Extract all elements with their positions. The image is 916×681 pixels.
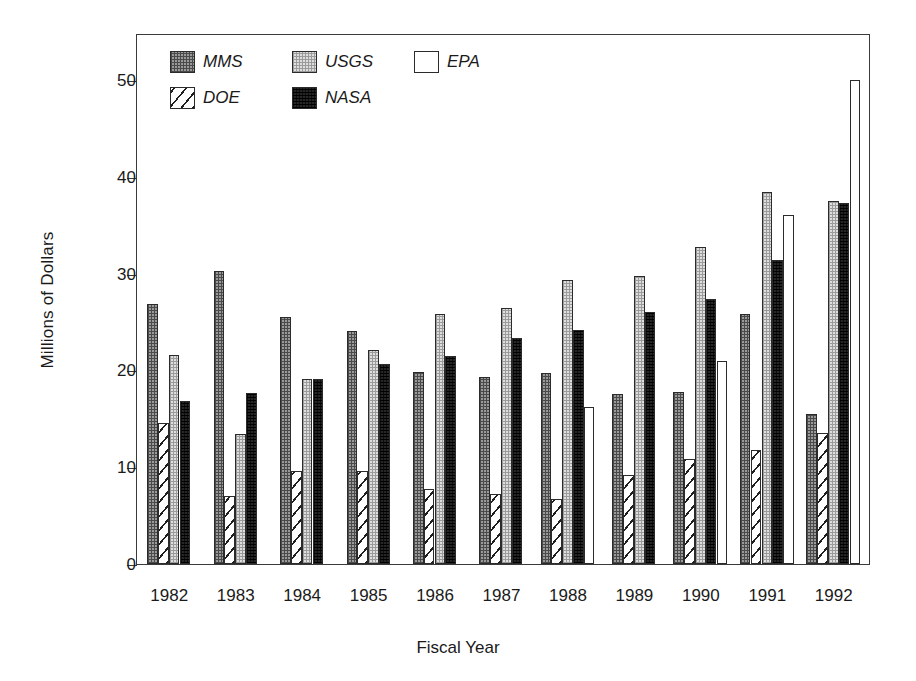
bar-group — [669, 35, 735, 564]
legend-label: USGS — [325, 51, 373, 73]
y-axis-tick-label: 40 — [32, 169, 136, 186]
bar-nasa-1986 — [445, 356, 456, 564]
bar-epa-1991 — [783, 215, 794, 564]
bar-usgs-1986 — [435, 314, 446, 564]
bar-mms-1986 — [413, 372, 424, 564]
bar-nasa-1983 — [246, 393, 257, 564]
bar-nasa-1988 — [573, 330, 584, 564]
x-axis-tick-label: 1988 — [535, 586, 601, 606]
bar-nasa-1984 — [313, 379, 324, 564]
y-axis-title: Millions of Dollars — [38, 190, 58, 410]
swatch-doe-diagonal-hatch-icon — [170, 87, 195, 109]
legend-label: DOE — [203, 87, 240, 109]
bar-nasa-1990 — [706, 299, 717, 564]
bar-doe-1986 — [424, 489, 435, 565]
x-axis-tick-label: 1983 — [202, 586, 268, 606]
bar-doe-1982 — [158, 423, 169, 564]
bar-epa-1990 — [717, 361, 728, 564]
bar-doe-1992 — [817, 433, 828, 564]
bar-epa-1988 — [584, 407, 595, 564]
bar-doe-1988 — [551, 499, 562, 564]
bar-group — [735, 35, 801, 564]
legend-label: NASA — [325, 87, 371, 109]
swatch-epa-white-icon — [414, 51, 439, 73]
bar-mms-1990 — [673, 392, 684, 564]
bar-mms-1988 — [541, 373, 552, 564]
x-axis-tick-label: 1987 — [468, 586, 534, 606]
bar-usgs-1988 — [562, 280, 573, 564]
bar-mms-1989 — [612, 394, 623, 564]
bar-doe-1989 — [623, 475, 634, 564]
bar-group — [602, 35, 668, 564]
bar-doe-1983 — [224, 496, 235, 564]
swatch-usgs-light-speckled-icon — [292, 51, 317, 73]
x-axis-tick-label: 1989 — [601, 586, 667, 606]
x-axis-tick-label: 1991 — [734, 586, 800, 606]
bar-mms-1983 — [214, 271, 225, 564]
bar-nasa-1982 — [180, 401, 191, 564]
swatch-mms-dark-speckled-icon — [170, 51, 195, 73]
y-axis-tick-label: 50 — [32, 72, 136, 89]
legend-label: EPA — [447, 51, 480, 73]
legend-label: MMS — [203, 51, 243, 73]
x-axis-tick-label: 1992 — [801, 586, 867, 606]
x-axis-title: Fiscal Year — [0, 638, 916, 658]
bar-nasa-1985 — [379, 364, 390, 564]
bar-usgs-1987 — [501, 308, 512, 564]
bar-doe-1987 — [490, 494, 501, 564]
bar-doe-1984 — [291, 471, 302, 564]
bar-usgs-1990 — [695, 247, 706, 565]
x-axis-tick-label: 1990 — [668, 586, 734, 606]
bar-epa-1992 — [850, 80, 861, 564]
bar-usgs-1989 — [634, 276, 645, 564]
bar-doe-1991 — [751, 450, 762, 564]
bar-mms-1985 — [347, 331, 358, 564]
bar-doe-1985 — [357, 471, 368, 564]
chart-legend: MMSUSGSEPADOENASA — [170, 47, 530, 121]
bar-usgs-1983 — [235, 434, 246, 564]
bar-mms-1991 — [740, 314, 751, 564]
bar-nasa-1991 — [772, 260, 783, 564]
bar-usgs-1982 — [169, 355, 180, 564]
y-axis-tick-label: 10 — [32, 459, 136, 476]
x-axis-tick-label: 1986 — [402, 586, 468, 606]
bar-nasa-1987 — [512, 338, 523, 564]
bar-nasa-1992 — [839, 203, 850, 564]
bar-usgs-1985 — [368, 350, 379, 564]
y-axis-tick-label: 0 — [32, 556, 136, 573]
bar-usgs-1992 — [828, 201, 839, 564]
bar-mms-1984 — [280, 317, 291, 564]
x-axis-tick-label: 1984 — [269, 586, 335, 606]
bar-mms-1982 — [147, 304, 158, 564]
bar-mms-1987 — [479, 377, 490, 564]
swatch-nasa-solid-black-icon — [292, 87, 317, 109]
bar-nasa-1989 — [645, 312, 656, 564]
bar-chart-figure: 01020304050 Millions of Dollars Fiscal Y… — [0, 0, 916, 681]
bar-mms-1992 — [806, 414, 817, 564]
bar-group — [536, 35, 602, 564]
x-axis-tick-label: 1982 — [136, 586, 202, 606]
bar-usgs-1991 — [762, 192, 773, 564]
bar-usgs-1984 — [302, 379, 313, 564]
y-axis: 01020304050 — [0, 0, 136, 681]
bar-group — [802, 35, 868, 564]
x-axis-tick-label: 1985 — [335, 586, 401, 606]
bar-doe-1990 — [684, 459, 695, 564]
